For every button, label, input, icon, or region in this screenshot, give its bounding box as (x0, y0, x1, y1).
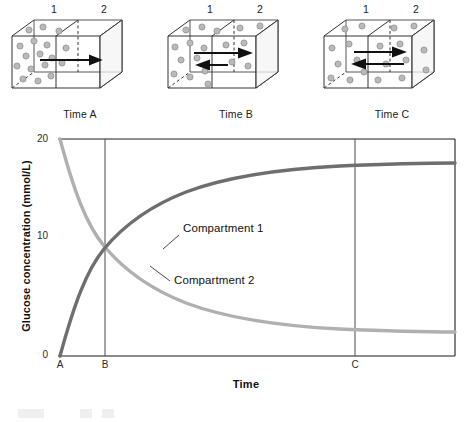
compartment-2-number-c: 2 (413, 3, 419, 15)
chart-plot-area (0, 128, 471, 400)
series-label-compartment-1: Compartment 1 (183, 222, 264, 234)
caption-time-c: Time C (316, 108, 468, 120)
box-diagram-b: 1 2 (160, 0, 312, 110)
caption-time-a: Time A (4, 108, 156, 120)
y-axis-label: Glucose concentration (mmol/L) (20, 136, 32, 356)
panel-time-c: 1 2 Time C (316, 0, 468, 128)
series-compartment-1-curve (60, 139, 455, 332)
compartment-2-number-b: 2 (257, 3, 263, 15)
compartment-1-number-a: 1 (51, 3, 57, 15)
compartment-2-number-a: 2 (101, 3, 107, 15)
box-diagram-c: 1 2 (316, 0, 468, 110)
x-tick-b: B (96, 359, 114, 370)
series-compartment-2-curve (60, 163, 455, 356)
caption-time-b: Time B (160, 108, 312, 120)
box-diagram-a: 1 2 (4, 0, 156, 110)
compartment-1-number-b: 1 (207, 3, 213, 15)
x-axis-label: Time (186, 378, 306, 390)
panel-time-a: 1 2 Time A (4, 0, 156, 128)
glucose-concentration-chart: 20 10 0 A B C Glucose concentration (mmo… (0, 128, 471, 400)
series-label-compartment-2: Compartment 2 (174, 274, 255, 286)
x-tick-c: C (346, 359, 364, 370)
leader-line-compartment-2 (150, 266, 170, 281)
compartment-1-number-c: 1 (363, 3, 369, 15)
leader-line-compartment-1 (163, 235, 179, 249)
panel-time-b: 1 2 Time B (160, 0, 312, 128)
compartment-diagrams: 1 2 Time A (0, 0, 471, 128)
page-footer-artifact (18, 409, 138, 418)
x-tick-a: A (51, 359, 69, 370)
